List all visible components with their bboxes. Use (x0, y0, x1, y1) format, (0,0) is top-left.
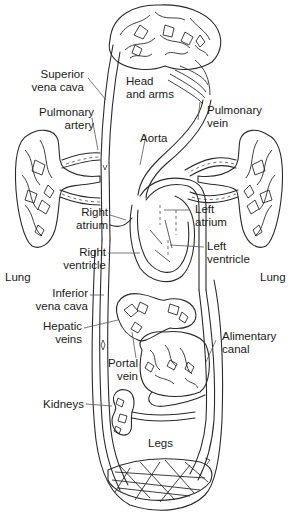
label-line: Left (195, 203, 227, 216)
label-line: ventricle (207, 253, 250, 266)
label-line: Head (126, 75, 174, 88)
heart (110, 178, 206, 290)
label-pulmonary-vein: Pulmonary vein (207, 104, 262, 130)
label-line: Aorta (140, 132, 168, 145)
label-line: Hepatic (30, 320, 82, 333)
label-left-atrium: Left atrium (195, 203, 227, 229)
label-left-ventricle: Left ventricle (207, 240, 250, 266)
label-line: Portal (104, 357, 138, 370)
label-lung-right: Lung (260, 271, 286, 284)
label-right-ventricle: Right ventricle (44, 246, 106, 272)
label-line: canal (222, 343, 276, 356)
label-line: vein (104, 370, 138, 383)
label-line: Lung (5, 271, 31, 284)
label-kidneys: Kidneys (30, 398, 84, 411)
carotid-vessel (138, 100, 211, 198)
label-line: vena cava (20, 300, 88, 313)
label-line: Left (207, 240, 250, 253)
label-line: Right (56, 206, 108, 219)
label-line: veins (30, 333, 82, 346)
label-line: artery (12, 119, 94, 132)
label-line: Lung (260, 271, 286, 284)
label-line: vena cava (14, 81, 84, 94)
label-head-and-arms: Head and arms (126, 75, 174, 101)
label-line: Right (44, 246, 106, 259)
alimentary-canal-capillaries (140, 332, 209, 407)
label-line: Legs (148, 437, 173, 450)
label-portal-vein: Portal vein (104, 357, 138, 383)
label-line: Pulmonary (207, 104, 262, 117)
label-line: vein (207, 117, 262, 130)
right-lung (185, 130, 282, 247)
label-line: Pulmonary (12, 106, 94, 119)
label-right-atrium: Right atrium (56, 206, 108, 232)
label-line: Superior (14, 68, 84, 81)
label-line: atrium (195, 216, 227, 229)
label-legs: Legs (148, 437, 173, 450)
label-line: Alimentary (222, 330, 276, 343)
legs-capillaries (108, 459, 212, 502)
liver-capillaries (117, 294, 196, 341)
label-line: Inferior (20, 287, 88, 300)
label-line: atrium (56, 219, 108, 232)
label-line: Kidneys (30, 398, 84, 411)
label-hepatic-veins: Hepatic veins (30, 320, 82, 346)
label-line: and arms (126, 88, 174, 101)
label-lung-left: Lung (5, 271, 31, 284)
label-aorta: Aorta (140, 132, 168, 145)
label-inferior-vena-cava: Inferior vena cava (20, 287, 88, 313)
label-pulmonary-artery: Pulmonary artery (12, 106, 94, 132)
label-superior-vena-cava: Superior vena cava (14, 68, 84, 94)
label-line: ventricle (44, 259, 106, 272)
label-alimentary-canal: Alimentary canal (222, 330, 276, 356)
